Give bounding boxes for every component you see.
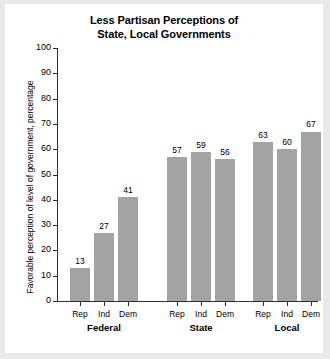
x-tick (80, 302, 81, 306)
bar (191, 152, 211, 301)
y-tick-label: 60 (41, 143, 51, 153)
y-tick-label: 80 (41, 93, 51, 103)
y-tick-label: 40 (41, 194, 51, 204)
y-tick-label: 70 (41, 118, 51, 128)
x-tick (311, 302, 312, 306)
bar (94, 233, 114, 301)
y-tick-label: 100 (36, 42, 51, 52)
y-tick (53, 276, 57, 277)
page-title: Less Partisan Perceptions of State, Loca… (5, 13, 323, 41)
y-tick-label: 90 (41, 67, 51, 77)
chart-title-line-1: Less Partisan Perceptions of (5, 13, 323, 27)
bar-value-label: 27 (88, 221, 120, 231)
x-tick (201, 302, 202, 306)
bar (167, 157, 187, 301)
y-tick-label: 50 (41, 169, 51, 179)
y-tick (53, 200, 57, 201)
bar (215, 159, 235, 301)
x-group-label: Federal (54, 322, 154, 333)
chart-figure: Less Partisan Perceptions of State, Loca… (5, 4, 323, 353)
x-tick (177, 302, 178, 306)
y-tick-label: 0 (46, 295, 51, 305)
x-tick (128, 302, 129, 306)
x-tick (104, 302, 105, 306)
y-tick-label: 20 (41, 244, 51, 254)
bar-value-label: 60 (271, 137, 303, 147)
bar-value-label: 56 (209, 147, 241, 157)
x-axis-line (57, 301, 318, 302)
bar-value-label: 41 (112, 185, 144, 195)
y-tick-label: 10 (41, 270, 51, 280)
x-group-label: Local (237, 322, 330, 333)
y-tick (53, 250, 57, 251)
x-category-label: Dem (110, 309, 146, 319)
y-axis-label: Favorable perception of level of governm… (25, 62, 35, 312)
y-tick (53, 124, 57, 125)
plot-area: 0102030405060708090100 13274157595663606… (57, 48, 318, 301)
y-tick (53, 175, 57, 176)
y-tick (53, 149, 57, 150)
bar (253, 142, 273, 301)
y-tick (53, 301, 57, 302)
y-tick (53, 99, 57, 100)
y-axis-line (57, 48, 58, 302)
chart-title-line-2: State, Local Governments (5, 27, 323, 41)
bar (70, 268, 90, 301)
x-tick (263, 302, 264, 306)
x-category-label: Dem (293, 309, 329, 319)
x-category-label: Dem (207, 309, 243, 319)
bar (301, 132, 321, 302)
bar (277, 149, 297, 301)
y-tick (53, 48, 57, 49)
y-tick (53, 225, 57, 226)
bar-value-label: 67 (295, 119, 327, 129)
bar-value-label: 13 (64, 256, 96, 266)
bar (118, 197, 138, 301)
x-tick (225, 302, 226, 306)
x-group-label: State (151, 322, 251, 333)
y-tick-label: 30 (41, 219, 51, 229)
x-tick (287, 302, 288, 306)
y-tick (53, 73, 57, 74)
